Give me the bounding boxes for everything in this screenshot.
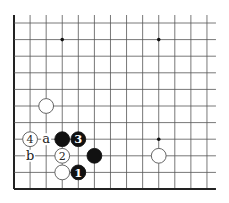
star-point-icon bbox=[157, 38, 161, 42]
point-marker-a: a bbox=[42, 131, 50, 146]
black-stone-icon bbox=[55, 132, 70, 147]
move-number-label: 3 bbox=[74, 132, 82, 146]
black-stone bbox=[87, 148, 102, 163]
white-stone bbox=[151, 148, 166, 163]
move-number-label: 1 bbox=[74, 166, 82, 180]
white-stone-2: 2 bbox=[55, 148, 70, 163]
black-stone bbox=[55, 132, 70, 147]
white-stone-icon bbox=[39, 99, 54, 114]
move-number-label: 2 bbox=[59, 150, 66, 163]
white-stone-icon bbox=[151, 148, 166, 163]
black-stone-3: 3 bbox=[71, 132, 86, 147]
white-stone-icon bbox=[55, 165, 70, 180]
black-stone-1: 1 bbox=[71, 165, 86, 180]
black-stone-icon bbox=[87, 148, 102, 163]
star-point-icon bbox=[60, 38, 64, 42]
move-number-label: 4 bbox=[27, 133, 34, 146]
white-stone bbox=[55, 165, 70, 180]
white-stone bbox=[39, 99, 54, 114]
go-board: 4321 ab bbox=[0, 0, 229, 203]
white-stone-4: 4 bbox=[23, 132, 38, 147]
star-point-icon bbox=[157, 137, 161, 141]
point-marker-b: b bbox=[26, 148, 34, 163]
